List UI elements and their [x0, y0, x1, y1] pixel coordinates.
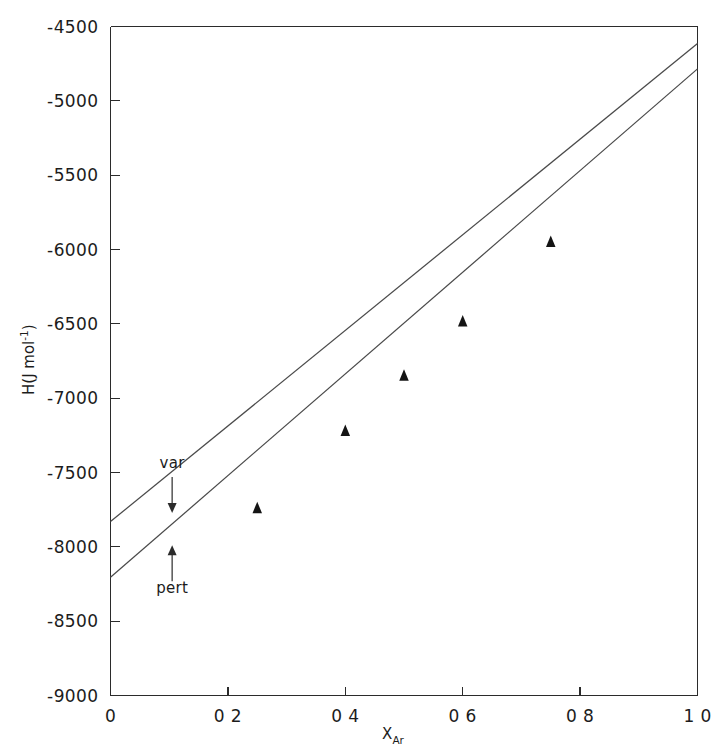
y-tick-label: -4500 — [47, 17, 98, 37]
x-axis-title: XAr — [382, 725, 404, 746]
y-axis-title-tail: ) — [20, 324, 38, 330]
annotation-label: pert — [156, 579, 188, 597]
y-tick-label: -6500 — [47, 314, 98, 334]
series-line-var — [111, 44, 698, 522]
data-markers — [253, 236, 556, 514]
series-lines — [111, 44, 698, 578]
svg-text:H(J mol-1): H(J mol-1) — [18, 324, 38, 395]
x-tick-label: 1 0 — [683, 706, 711, 726]
y-axis: -9000-8500-8000-7500-7000-6500-6000-5500… — [47, 17, 119, 706]
annotation-pert: pert — [156, 545, 188, 597]
annotation-label: var — [160, 454, 186, 472]
y-axis-title-superscript: -1 — [18, 330, 30, 340]
data-point-marker — [546, 236, 556, 248]
y-tick-label: -8500 — [47, 611, 98, 631]
x-axis-title-subscript: Ar — [392, 734, 404, 746]
y-tick-label: -5500 — [47, 165, 98, 185]
y-tick-label: -8000 — [47, 537, 98, 557]
plot-frame — [111, 27, 698, 696]
x-axis-title-main: X — [382, 725, 392, 743]
data-point-marker — [458, 315, 468, 327]
arrow-up-icon — [168, 545, 177, 555]
arrow-down-icon — [168, 503, 177, 513]
data-point-marker — [399, 369, 409, 381]
y-axis-title: H(J mol-1) — [18, 324, 38, 395]
y-tick-label: -9000 — [47, 686, 98, 706]
x-tick-label: 0 8 — [566, 706, 594, 726]
series-line-pert — [111, 69, 698, 577]
y-tick-label: -7000 — [47, 388, 98, 408]
x-tick-label: 0 — [105, 706, 116, 726]
y-tick-label: -7500 — [47, 463, 98, 483]
y-tick-label: -6000 — [47, 240, 98, 260]
x-axis: 00 20 40 60 81 0 — [105, 687, 712, 726]
chart-canvas: -9000-8500-8000-7500-7000-6500-6000-5500… — [0, 0, 719, 756]
data-point-marker — [341, 424, 351, 436]
series-annotations: varpert — [156, 454, 188, 597]
x-tick-label: 0 6 — [449, 706, 477, 726]
figure-root: -9000-8500-8000-7500-7000-6500-6000-5500… — [0, 0, 719, 756]
y-axis-title-main: H(J mol — [20, 341, 38, 395]
data-point-marker — [253, 502, 263, 513]
annotation-var: var — [160, 454, 186, 513]
svg-text:XAr: XAr — [382, 725, 404, 746]
x-tick-label: 0 4 — [331, 706, 359, 726]
x-tick-label: 0 2 — [214, 706, 242, 726]
y-tick-label: -5000 — [47, 91, 98, 111]
